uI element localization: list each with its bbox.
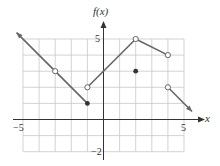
x-axis-arrow-icon bbox=[198, 117, 205, 123]
curve-segment bbox=[87, 39, 135, 87]
x-axis-label: x bbox=[205, 113, 210, 124]
y-axis-label: f(x) bbox=[93, 6, 108, 17]
closed-point bbox=[133, 69, 138, 74]
y-axis-arrow-icon bbox=[101, 21, 107, 28]
x-max-tick-label: 5 bbox=[181, 123, 186, 133]
open-point bbox=[165, 85, 170, 90]
y-max-tick-label: 5 bbox=[95, 34, 100, 44]
x-min-tick-label: −5 bbox=[13, 123, 24, 133]
open-point bbox=[53, 69, 58, 74]
open-point bbox=[133, 36, 138, 41]
y-min-tick-label: −2 bbox=[91, 147, 102, 157]
open-point bbox=[165, 53, 170, 58]
curve-segment bbox=[17, 33, 88, 104]
open-point bbox=[85, 85, 90, 90]
closed-point bbox=[85, 101, 90, 106]
function-graph bbox=[0, 0, 220, 166]
